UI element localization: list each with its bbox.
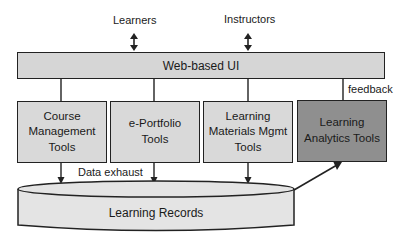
learning-analytics-line-1: Learning [304, 115, 380, 131]
learners-arrow [130, 33, 138, 51]
learning-records-label: Learning Records [17, 206, 295, 220]
learning-analytics-tools-box: Learning Analytics Tools [297, 100, 387, 162]
learners-label: Learners [113, 15, 156, 26]
learning-materials-mgmt-tools-box: Learning Materials Mgmt Tools [203, 101, 293, 163]
web-based-ui-label: Web-based UI [163, 59, 239, 73]
instructors-label: Instructors [224, 14, 275, 25]
e-portfolio-tools-box: e-Portfolio Tools [110, 101, 200, 163]
course-management-tools-box: Course Management Tools [17, 101, 107, 163]
learning-analytics-line-2: Analytics Tools [304, 131, 380, 147]
web-based-ui-layer: Web-based UI [17, 52, 385, 79]
data-exhaust-label: Data exhaust [78, 167, 143, 178]
course-management-line-3: Tools [28, 140, 95, 156]
lmm-line-3: Tools [209, 140, 288, 156]
course-management-line-2: Management [28, 124, 95, 140]
lmm-line-1: Learning [209, 109, 288, 125]
e-portfolio-line-2: Tools [129, 132, 181, 148]
course-management-line-1: Course [28, 109, 95, 125]
lmm-line-2: Materials Mgmt [209, 124, 288, 140]
instructors-arrow [244, 33, 252, 51]
feedback-label: feedback [348, 84, 393, 95]
records-to-analytics-arrow [294, 161, 342, 190]
e-portfolio-line-1: e-Portfolio [129, 116, 181, 132]
